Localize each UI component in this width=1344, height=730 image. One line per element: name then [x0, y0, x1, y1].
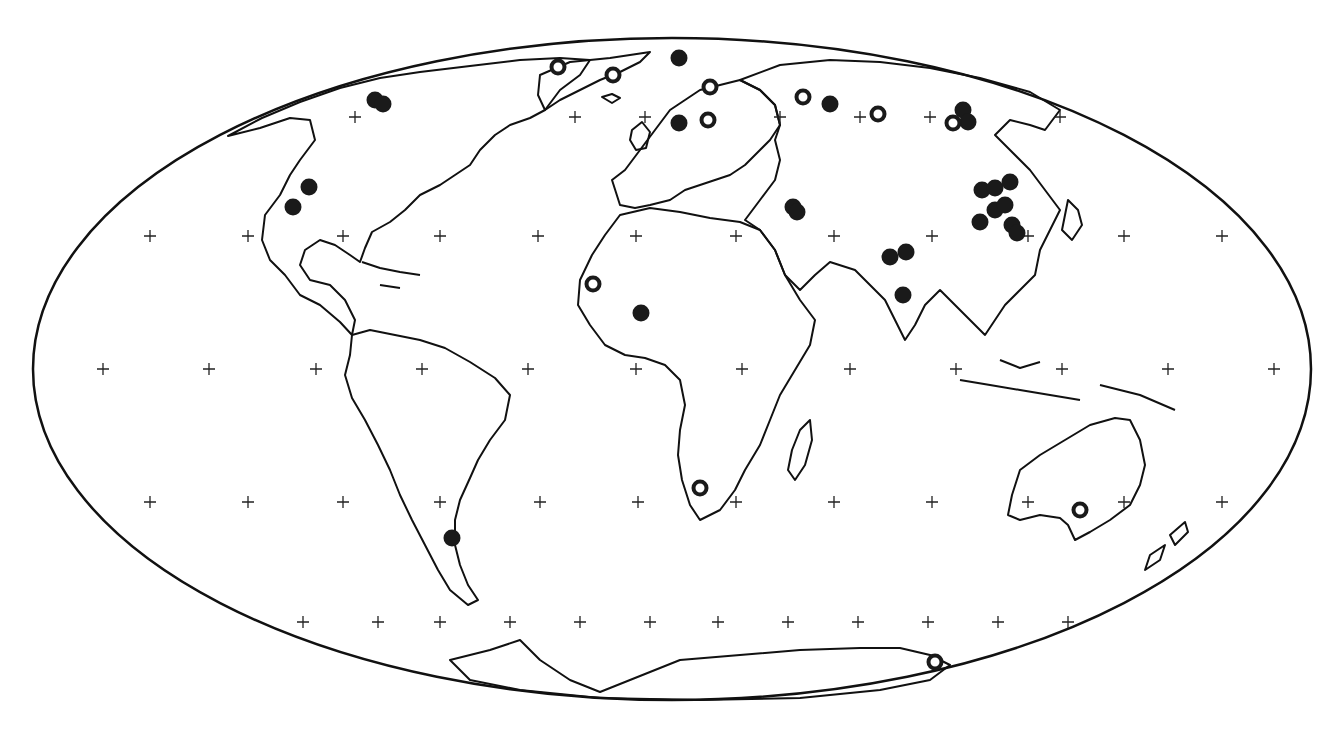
filled-site-marker [671, 50, 688, 67]
filled-site-marker [997, 197, 1014, 214]
open-site-marker [694, 482, 707, 495]
open-site-marker [947, 117, 960, 130]
filled-site-marker [1002, 174, 1019, 191]
filled-site-marker [822, 96, 839, 113]
open-site-marker [552, 61, 565, 74]
filled-site-marker [285, 199, 302, 216]
filled-site-marker [895, 287, 912, 304]
open-site-marker [797, 91, 810, 104]
filled-site-marker [972, 214, 989, 231]
world-map [0, 0, 1344, 730]
filled-site-marker [671, 115, 688, 132]
filled-site-marker [1009, 225, 1026, 242]
filled-site-marker [444, 530, 461, 547]
open-site-marker [702, 114, 715, 127]
filled-site-marker [301, 179, 318, 196]
filled-site-marker [987, 180, 1004, 197]
open-site-marker [607, 69, 620, 82]
filled-site-marker [633, 305, 650, 322]
filled-site-marker [960, 114, 977, 131]
open-site-marker [587, 278, 600, 291]
open-site-marker [704, 81, 717, 94]
open-site-marker [1074, 504, 1087, 517]
open-site-marker [929, 656, 942, 669]
filled-site-marker [375, 96, 392, 113]
map-border [33, 38, 1311, 700]
open-site-marker [872, 108, 885, 121]
filled-site-marker [898, 244, 915, 261]
filled-site-marker [789, 204, 806, 221]
filled-site-marker [882, 249, 899, 266]
